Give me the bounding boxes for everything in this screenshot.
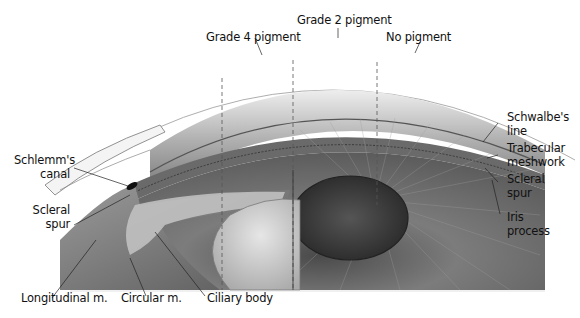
label-line2: process <box>507 224 550 238</box>
label-line1: Schwalbe's <box>507 110 569 124</box>
label-grade-4-pigment: Grade 4 pigment <box>206 30 301 44</box>
label-line1: Iris <box>507 210 550 224</box>
anterior-chamber-angle-illustration <box>0 0 580 318</box>
label-line1: Scleral <box>14 203 70 217</box>
label-iris-process: Iris process <box>507 210 550 238</box>
label-grade-2-pigment: Grade 2 pigment <box>297 13 392 27</box>
label-line1: Schlemm's <box>14 153 70 167</box>
label-no-pigment: No pigment <box>386 30 451 44</box>
label-scleral-spur-right: Scleral spur <box>507 172 544 200</box>
label-schwalbes-line: Schwalbe's line <box>507 110 569 138</box>
pupil <box>292 176 408 260</box>
label-line2: line <box>507 124 569 138</box>
label-line1: Trabecular <box>507 141 565 155</box>
label-line2: spur <box>14 217 70 231</box>
label-ciliary-body: Ciliary body <box>207 291 273 305</box>
label-line2: meshwork <box>507 155 565 169</box>
label-circular-muscle: Circular m. <box>121 291 182 305</box>
label-line2: spur <box>507 186 544 200</box>
label-schlemms-canal: Schlemm's canal <box>14 153 70 181</box>
label-line2: canal <box>14 167 70 181</box>
label-longitudinal-muscle: Longitudinal m. <box>21 291 107 305</box>
label-line1: Scleral <box>507 172 544 186</box>
label-trabecular-meshwork: Trabecular meshwork <box>507 141 565 169</box>
label-scleral-spur-left: Scleral spur <box>14 203 70 231</box>
